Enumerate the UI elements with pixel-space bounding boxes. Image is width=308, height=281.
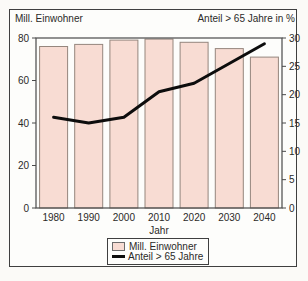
x-tick-label-1980: 1980 xyxy=(42,212,65,223)
legend-label-share: Anteil > 65 Jahre xyxy=(128,251,203,262)
bar-1990 xyxy=(75,44,103,208)
bar-2010 xyxy=(145,39,173,208)
right-tick-label-15: 15 xyxy=(289,118,301,129)
x-tick-label-2040: 2040 xyxy=(253,212,276,223)
right-tick-label-0: 0 xyxy=(289,203,295,214)
bar-2000 xyxy=(110,40,138,208)
left-tick-label-20: 20 xyxy=(18,160,30,171)
x-tick-label-2030: 2030 xyxy=(218,212,241,223)
right-tick-label-20: 20 xyxy=(289,89,301,100)
right-tick-label-10: 10 xyxy=(289,146,301,157)
x-tick-label-2000: 2000 xyxy=(113,212,136,223)
left-tick-label-80: 80 xyxy=(18,33,30,44)
right-tick-label-5: 5 xyxy=(289,174,295,185)
x-axis-title: Jahr xyxy=(36,225,282,236)
chart-image: Mill. Einwohner Anteil > 65 Jahre in % 0… xyxy=(0,0,308,281)
left-tick-label-40: 40 xyxy=(18,118,30,129)
x-tick-label-2010: 2010 xyxy=(148,212,171,223)
bar-swatch-icon xyxy=(112,242,125,251)
legend-label-population: Mill. Einwohner xyxy=(129,241,197,252)
right-tick-label-25: 25 xyxy=(289,61,301,72)
bar-1980 xyxy=(40,47,68,209)
x-tick-label-2020: 2020 xyxy=(183,212,206,223)
legend: Mill. Einwohner Anteil > 65 Jahre xyxy=(107,238,209,265)
right-tick-label-30: 30 xyxy=(289,33,301,44)
bar-2040 xyxy=(250,57,278,208)
legend-item-share: Anteil > 65 Jahre xyxy=(112,252,204,263)
left-tick-label-60: 60 xyxy=(18,75,30,86)
x-tick-label-1990: 1990 xyxy=(78,212,101,223)
left-tick-label-0: 0 xyxy=(23,203,29,214)
bar-2020 xyxy=(180,42,208,208)
legend-item-population: Mill. Einwohner xyxy=(112,241,204,252)
line-swatch-icon xyxy=(112,255,125,258)
bar-2030 xyxy=(215,49,243,208)
